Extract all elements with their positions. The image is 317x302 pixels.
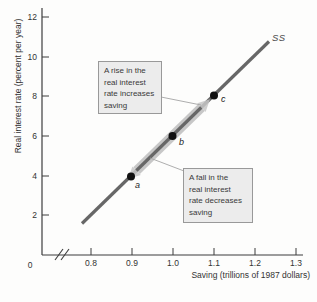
rise-annotation-box: A rise in the real interest rate increas… — [98, 61, 162, 114]
saving-supply-figure: Real interest rate (percent per year) Sa… — [0, 0, 317, 302]
fall-callout-pointer — [150, 158, 184, 171]
y-tick-6: 6 — [15, 131, 37, 141]
ss-curve-label: SS — [272, 32, 286, 43]
x-tick-0-9: 0.9 — [119, 258, 145, 268]
y-tick-2: 2 — [15, 210, 37, 220]
y-tick-12: 12 — [15, 12, 37, 22]
point-b-dot — [169, 132, 177, 140]
y-axis-ticks — [42, 17, 49, 215]
point-a-dot — [127, 173, 135, 181]
y-tick-8: 8 — [15, 91, 37, 101]
x-tick-0-8: 0.8 — [78, 258, 104, 268]
origin-label: 0 — [24, 260, 36, 270]
x-tick-1-3: 1.3 — [283, 258, 309, 268]
y-tick-4: 4 — [15, 171, 37, 181]
x-axis-ticks — [91, 248, 296, 255]
point-c-dot — [210, 92, 218, 100]
plot-canvas — [0, 0, 317, 302]
y-tick-10: 10 — [15, 52, 37, 62]
x-tick-1-0: 1.0 — [160, 258, 186, 268]
x-tick-1-1: 1.1 — [201, 258, 227, 268]
fall-annotation-box: A fall in the real interest rate decreas… — [183, 168, 253, 223]
point-b-label: b — [179, 137, 184, 147]
rise-callout-pointer — [161, 97, 201, 105]
point-a-label: a — [135, 180, 140, 190]
x-axis-title: Saving (trillions of 1987 dollars) — [150, 270, 310, 280]
point-c-label: c — [221, 94, 226, 104]
x-tick-1-2: 1.2 — [242, 258, 268, 268]
